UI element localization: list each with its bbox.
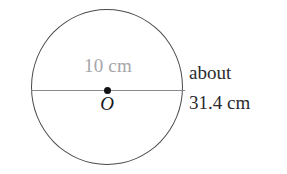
circumference-callout: about 31.4 cm [189, 58, 250, 118]
diameter-measurement-label: 10 cm [31, 55, 185, 77]
center-point-label: O [31, 93, 183, 115]
circumference-callout-line-2: 31.4 cm [189, 88, 250, 118]
circumference-callout-line-1: about [189, 58, 250, 88]
circle-diagram: 10 cm O about 31.4 cm [0, 0, 287, 174]
